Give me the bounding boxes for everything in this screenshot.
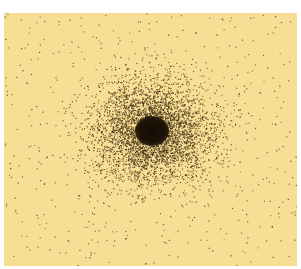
stipple-paper [4, 13, 297, 266]
dense-core-blob [135, 116, 169, 146]
